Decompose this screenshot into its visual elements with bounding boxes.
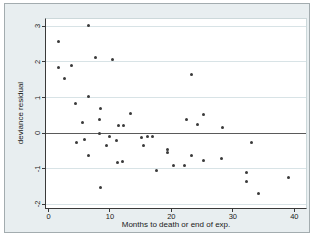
x-tick-label: 20	[161, 212, 181, 221]
y-gridline	[46, 204, 306, 205]
data-point	[122, 124, 125, 127]
y-gridline	[46, 26, 306, 27]
data-point	[87, 154, 90, 157]
x-tick-label: 40	[284, 212, 304, 221]
figure: deviance residual Months to death or end…	[4, 3, 310, 233]
data-point	[221, 126, 224, 129]
data-point	[129, 112, 132, 115]
data-point	[287, 176, 290, 179]
x-tick-label: 10	[100, 212, 120, 221]
x-axis-title: Months to death or end of exp.	[46, 220, 306, 229]
data-point	[121, 160, 124, 163]
y-tick-label: 3	[31, 19, 43, 33]
data-point	[190, 73, 193, 76]
y-gridline	[46, 61, 306, 62]
data-point	[74, 102, 77, 105]
data-point	[98, 132, 101, 135]
data-point	[190, 154, 193, 157]
data-point	[202, 159, 205, 162]
data-point	[57, 66, 60, 69]
data-point	[63, 77, 66, 80]
data-point	[151, 135, 154, 138]
y-gridline	[46, 168, 306, 169]
x-tick-label: 30	[223, 212, 243, 221]
y-tick-label: -2	[31, 197, 43, 211]
data-point	[202, 113, 205, 116]
data-point	[185, 118, 188, 121]
x-tick-label: 0	[38, 212, 58, 221]
data-point	[70, 64, 73, 67]
y-gridline	[46, 97, 306, 98]
data-point	[220, 157, 223, 160]
data-point	[99, 107, 102, 110]
y-tick-label: 1	[31, 91, 43, 105]
data-point	[83, 138, 86, 141]
data-point	[108, 135, 111, 138]
page: deviance residual Months to death or end…	[0, 0, 317, 249]
y-axis-title: deviance residual	[16, 82, 25, 144]
y-tick-label: -1	[31, 162, 43, 176]
data-point	[140, 136, 143, 139]
data-point	[146, 135, 149, 138]
data-point	[257, 192, 260, 195]
data-point	[105, 144, 108, 147]
data-point	[142, 144, 145, 147]
data-point	[245, 180, 248, 183]
data-point	[81, 121, 84, 124]
data-point	[75, 141, 78, 144]
data-point	[57, 40, 60, 43]
zero-reference-line	[46, 133, 306, 134]
data-point	[115, 139, 118, 142]
data-point	[155, 169, 158, 172]
data-point	[87, 95, 90, 98]
data-point	[245, 171, 248, 174]
data-point	[117, 124, 120, 127]
data-point	[196, 123, 199, 126]
data-point	[183, 164, 186, 167]
y-tick-label: 2	[31, 55, 43, 69]
data-point	[98, 118, 101, 121]
data-point	[172, 164, 175, 167]
data-point	[99, 186, 102, 189]
y-tick-label: 0	[31, 126, 43, 140]
data-point	[116, 161, 119, 164]
plot-area: deviance residual Months to death or end…	[45, 18, 307, 209]
data-point	[166, 148, 169, 151]
data-point	[94, 56, 97, 59]
data-point	[166, 151, 169, 154]
data-point	[250, 141, 253, 144]
